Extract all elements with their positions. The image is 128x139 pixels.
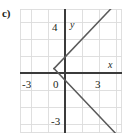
y-tick-label-4: 4 <box>52 22 58 33</box>
origin-label: 0 <box>53 79 59 90</box>
x-tick-label-negative-3: -3 <box>22 79 31 90</box>
x-tick-label-3: 3 <box>95 79 101 90</box>
y-axis-label: y <box>70 20 74 30</box>
coordinate-plot: 4 y -3 0 3 x -3 <box>20 9 122 133</box>
x-axis-label: x <box>108 60 112 70</box>
figure-container: c) <box>0 0 128 139</box>
part-label: c) <box>2 8 10 19</box>
y-tick-label-negative-3: -3 <box>51 116 60 127</box>
